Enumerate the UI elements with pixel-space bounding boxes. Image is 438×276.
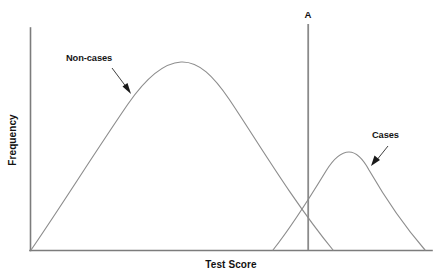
annotation-label-cases: Cases (372, 130, 399, 140)
distribution-chart: A Non-cases Cases Test Score Frequency (0, 0, 438, 276)
annotation-label-non-cases: Non-cases (66, 53, 112, 63)
chart-figure: A Non-cases Cases Test Score Frequency (0, 0, 438, 276)
x-axis-title: Test Score (205, 259, 257, 270)
y-axis-title: Frequency (7, 114, 18, 166)
threshold-label-a: A (305, 9, 312, 20)
